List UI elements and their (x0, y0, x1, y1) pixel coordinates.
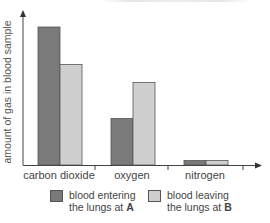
bar-carbon-dioxide-b (60, 65, 82, 166)
legend-swatch-a (50, 190, 63, 202)
y-axis-label: amount of gas in blood sample (1, 20, 13, 163)
x-label-nitrogen: nitrogen (185, 169, 225, 181)
x-axis-arrow-icon (255, 163, 262, 169)
bar-nitrogen-b (206, 161, 228, 166)
legend-item-a: blood entering the lungs at A (50, 189, 136, 213)
bar-carbon-dioxide-a (38, 27, 60, 165)
legend-a-line2: the lungs at A (69, 201, 136, 213)
legend-item-b: blood leaving the lungs at B (148, 189, 232, 213)
bar-oxygen-b (133, 83, 155, 166)
x-axis-labels: carbon dioxideoxygennitrogen (23, 169, 225, 181)
bar-oxygen-a (111, 119, 133, 166)
x-label-carbon-dioxide: carbon dioxide (23, 169, 95, 181)
bars-group (38, 27, 228, 165)
legend-a-line1: blood entering (69, 189, 136, 201)
legend-b-line1: blood leaving (167, 189, 232, 201)
y-axis-arrow-icon (20, 10, 26, 17)
legend: blood entering the lungs at A blood leav… (50, 189, 270, 223)
bar-nitrogen-a (184, 161, 206, 166)
legend-swatch-b (148, 190, 161, 202)
x-label-oxygen: oxygen (114, 169, 149, 181)
legend-b-line2: the lungs at B (167, 201, 232, 213)
